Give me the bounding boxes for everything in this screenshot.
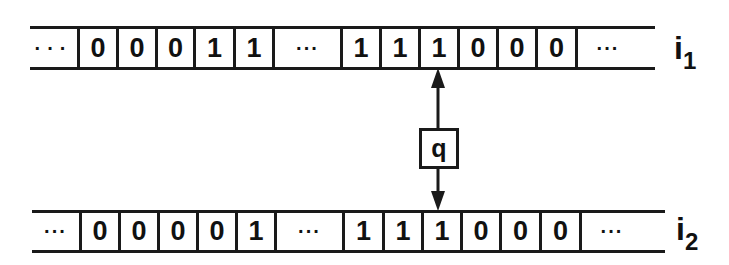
tape-cell: 1 [382,29,418,67]
tape-cell: ··· [275,29,340,67]
tape-cell: 1 [236,29,272,67]
tape-cell: ··· [277,213,342,250]
tape-cell: 0 [463,213,499,250]
tape-cell: 0 [82,213,118,250]
tape-cell: ··· [32,213,79,250]
tape-cell: 1 [238,213,274,250]
tape-cell: ··· [30,29,77,67]
tape-cell: 1 [196,29,233,67]
tape-cell: 1 [345,213,382,250]
tape-cell: ··· [578,29,638,67]
tape-cell: 0 [199,213,235,250]
tape-cell: 0 [542,213,579,250]
tape-cell: 0 [538,29,575,67]
tape-cell: 0 [502,213,539,250]
tape-cell: 0 [499,29,535,67]
tape-i2-label: i2 [676,211,698,256]
arrow-up-icon [431,68,445,88]
tape-cell: ··· [582,213,642,250]
tape-i2-bottom-rail [32,250,665,253]
head-state-box: q [419,128,459,169]
tape-cell-head: 1 [421,29,457,67]
tape-cell-head: 1 [424,213,460,250]
tape-cell: 0 [121,213,157,250]
tape-i1-label: i1 [674,30,696,75]
arrow-down-icon [431,191,445,211]
tape-cell: 0 [119,29,155,67]
tape-cell: 0 [80,29,116,67]
tape-cell: 0 [158,29,193,67]
tape-cell: 0 [160,213,196,250]
tape-cell: 0 [460,29,496,67]
tape-cell: 1 [385,213,421,250]
tape-cell: 1 [343,29,379,67]
